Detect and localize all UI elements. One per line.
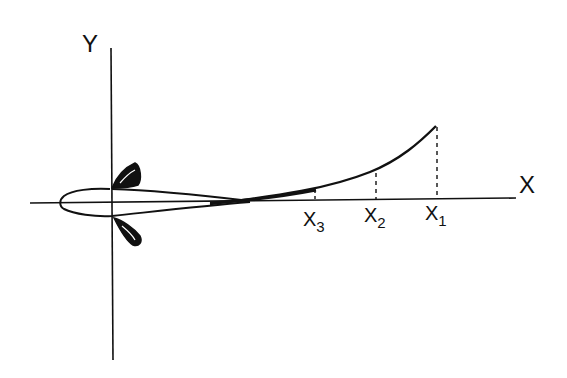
x-axis <box>30 198 516 203</box>
y-axis <box>111 48 113 360</box>
x-axis-label: X <box>519 171 535 198</box>
x2-label: X2 <box>364 204 386 231</box>
x1-label: X1 <box>425 202 447 229</box>
upper-fin <box>112 163 140 188</box>
diagram-canvas: Y X X3 X2 X1 <box>0 0 567 378</box>
y-axis-label: Y <box>82 30 98 57</box>
lower-fin <box>114 218 141 245</box>
x3-label: X3 <box>303 208 325 235</box>
deflection-curve <box>210 126 436 204</box>
